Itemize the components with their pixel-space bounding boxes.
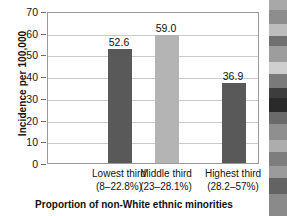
x-axis-title: Proportion of non-White ethnic minoritie… <box>0 199 268 210</box>
photograph-band <box>269 62 287 74</box>
photograph-band <box>269 88 287 98</box>
photograph-band <box>269 112 287 124</box>
y-tick-mark <box>41 55 46 56</box>
y-tick-mark <box>41 34 46 35</box>
bar-value-label: 36.9 <box>223 70 243 82</box>
x-tick-label: Highest third(28.2–57%) <box>187 168 279 193</box>
y-tick-label: 40 <box>0 71 38 83</box>
photograph-band <box>269 0 287 10</box>
photograph-band <box>269 140 287 152</box>
plot-area <box>47 12 259 164</box>
photograph-band <box>269 194 287 216</box>
x-tick-label-line1: Highest third <box>187 168 279 181</box>
photograph-strip <box>269 0 287 216</box>
x-tick-label-line2: (28.2–57%) <box>187 181 279 194</box>
y-tick-label: 20 <box>0 115 38 127</box>
y-tick-label: 60 <box>0 28 38 40</box>
bar <box>155 35 179 163</box>
photograph-band <box>269 46 287 62</box>
y-tick-mark <box>41 99 46 100</box>
y-tick-label: 70 <box>0 6 38 18</box>
photograph-band <box>269 74 287 88</box>
y-tick-label: 10 <box>0 136 38 148</box>
bar <box>108 49 132 163</box>
y-tick-mark <box>41 12 46 13</box>
photograph-band <box>269 166 287 178</box>
photograph-band <box>269 24 287 36</box>
y-tick-label: 0 <box>0 158 38 170</box>
y-tick-mark <box>41 142 46 143</box>
photograph-band <box>269 10 287 24</box>
photograph-band <box>269 98 287 112</box>
y-tick-label: 30 <box>0 93 38 105</box>
bar-value-label: 52.6 <box>109 36 129 48</box>
bar-value-label: 59.0 <box>156 22 176 34</box>
photograph-band <box>269 152 287 166</box>
photograph-band <box>269 36 287 46</box>
bar <box>222 83 246 163</box>
gridline <box>48 35 258 36</box>
photograph-band <box>269 178 287 194</box>
y-tick-mark <box>41 164 46 165</box>
y-tick-label: 50 <box>0 49 38 61</box>
y-tick-mark <box>41 77 46 78</box>
y-tick-mark <box>41 121 46 122</box>
photograph-band <box>269 124 287 140</box>
bar-chart-figure: Incidence per 100,000 010203040506070 52… <box>0 0 287 216</box>
gridline <box>48 56 258 57</box>
